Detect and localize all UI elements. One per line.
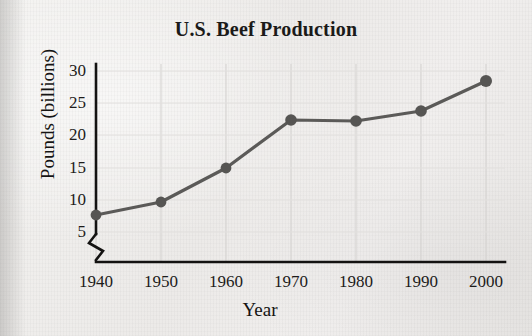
chart-page: U.S. Beef Production bbox=[0, 0, 532, 336]
x-tick-label-1990: 1990 bbox=[387, 272, 455, 292]
data-point-1970 bbox=[285, 114, 297, 126]
data-point-2000 bbox=[480, 75, 492, 87]
x-tick-label-2000: 2000 bbox=[452, 272, 520, 292]
x-tick-label-1950: 1950 bbox=[127, 272, 195, 292]
x-tick-label-1970: 1970 bbox=[257, 272, 325, 292]
data-point-1950 bbox=[156, 197, 167, 208]
data-point-1960 bbox=[221, 163, 232, 174]
horizontal-gridlines bbox=[96, 71, 505, 232]
x-axis-title: Year bbox=[190, 299, 330, 321]
data-point-1990 bbox=[415, 105, 427, 117]
data-point-1980 bbox=[350, 115, 362, 127]
y-tick-label-5: 5 bbox=[52, 222, 86, 242]
data-point-1940 bbox=[91, 210, 102, 221]
y-axis-title: Pounds (billions) bbox=[37, 19, 59, 209]
x-tick-label-1980: 1980 bbox=[322, 272, 390, 292]
x-tick-label-1960: 1960 bbox=[192, 272, 260, 292]
x-tick-label-1940: 1940 bbox=[62, 272, 130, 292]
